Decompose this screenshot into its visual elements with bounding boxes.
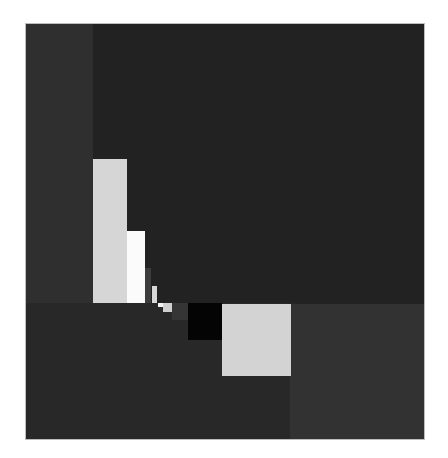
left-column (26, 24, 93, 303)
large-light-square (222, 304, 291, 376)
small-light-square (163, 303, 172, 312)
tall-light-grey-rect (93, 159, 127, 303)
grey-strip (145, 268, 151, 303)
white-rect (127, 231, 145, 303)
black-square (188, 303, 222, 340)
bottom-right-field (290, 304, 424, 439)
small-light-bar (152, 286, 157, 303)
mid-grey-square (172, 303, 188, 320)
